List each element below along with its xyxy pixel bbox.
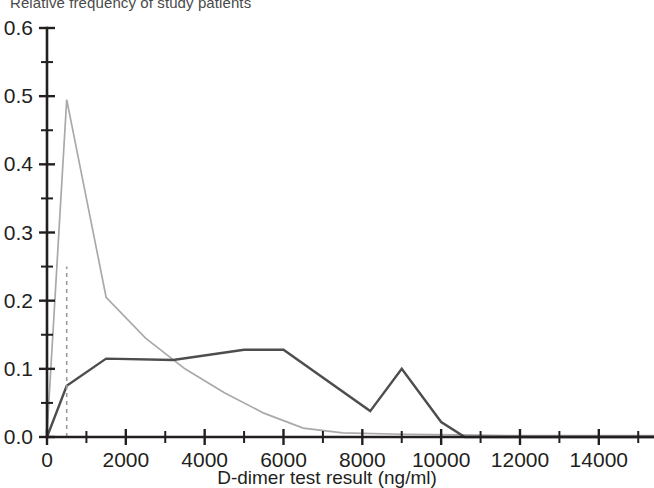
series-group <box>47 100 654 437</box>
y-tick-label: 0.2 <box>4 289 33 312</box>
y-tick-label: 0.0 <box>4 425 33 448</box>
line-chart-plot: 0.00.10.20.30.40.50.6 020004000600080001… <box>0 0 654 488</box>
x-tick-label: 14000 <box>570 448 628 471</box>
axis-group <box>47 28 654 437</box>
x-tick-label: 0 <box>41 448 53 471</box>
y-tick-label: 0.6 <box>4 16 33 39</box>
x-tick-label: 2000 <box>102 448 149 471</box>
x-axis-title: D-dimer test result (ng/ml) <box>217 467 437 488</box>
y-tick-label: 0.3 <box>4 221 33 244</box>
series-line-1 <box>47 350 654 437</box>
y-tick-label: 0.4 <box>4 152 34 175</box>
chart-figure: Relative frequency of study patients 0.0… <box>0 0 654 488</box>
x-tick-label: 12000 <box>491 448 549 471</box>
y-tick-label: 0.1 <box>4 357 33 380</box>
series-line-0 <box>47 100 654 436</box>
y-tick-label: 0.5 <box>4 84 33 107</box>
